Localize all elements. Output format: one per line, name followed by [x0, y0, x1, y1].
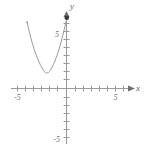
graph-figure: -5 5 5 -5 x y — [0, 0, 147, 153]
x-axis-arrow-icon — [128, 86, 135, 92]
y-tick-label-negative-five: -5 — [53, 135, 60, 144]
x-axis-label: x — [135, 83, 140, 93]
x-tick-label-positive-five: 5 — [114, 93, 118, 102]
y-tick-label-positive-five: 5 — [55, 30, 59, 39]
curve-endpoint-marker — [65, 15, 70, 20]
parabola-curve — [27, 18, 67, 74]
coordinate-plane-svg: -5 5 5 -5 x y — [0, 0, 147, 153]
y-axis-label: y — [69, 1, 74, 11]
curve-start-point — [26, 21, 28, 23]
x-tick-label-negative-five: -5 — [14, 93, 21, 102]
